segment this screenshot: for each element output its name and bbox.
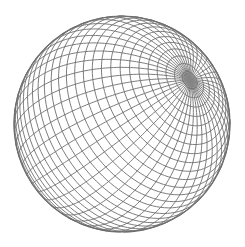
sphere-pole [184,73,196,87]
wireframe-sphere [0,0,245,247]
